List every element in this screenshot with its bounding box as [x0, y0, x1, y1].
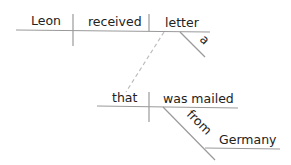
relative-baseline: [97, 106, 238, 108]
verb-word: received: [88, 14, 142, 29]
diagram-svg: Leon received letter a that was mailed f…: [0, 0, 291, 165]
prep-object-baseline: [205, 148, 280, 149]
sentence-diagram: Leon received letter a that was mailed f…: [0, 0, 291, 165]
relative-connector-dashed: [126, 32, 164, 92]
main-baseline: [16, 30, 210, 32]
relative-verb-word: was mailed: [163, 91, 234, 106]
relative-subject-word: that: [112, 90, 137, 105]
modifier-word: a: [197, 32, 213, 48]
object-word: letter: [165, 15, 200, 30]
prep-object-word: Germany: [219, 132, 277, 147]
subject-word: Leon: [31, 13, 61, 28]
